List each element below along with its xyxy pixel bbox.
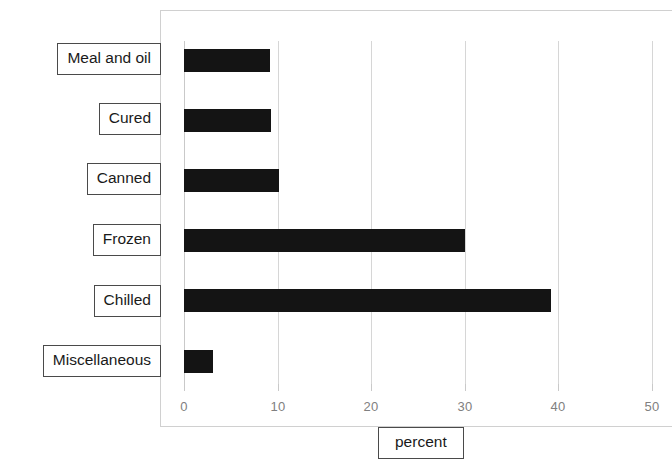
tickmark-40 (558, 384, 559, 391)
tickmark-50 (652, 384, 653, 391)
gridline-0 (184, 41, 185, 384)
bar-miscellaneous (184, 350, 213, 373)
gridline-40 (558, 41, 559, 384)
category-label-meal-and-oil: Meal and oil (57, 43, 161, 75)
tickmark-30 (465, 384, 466, 391)
tickmark-0 (184, 384, 185, 391)
category-label-frozen: Frozen (93, 224, 161, 256)
bar-chilled (184, 289, 551, 312)
category-label-cured: Cured (99, 103, 161, 135)
bar-chart-figure: 0 10 20 30 40 50 Meal and oil Cured Cann… (0, 0, 672, 459)
xtick-label-30: 30 (458, 399, 473, 414)
bar-meal-and-oil (184, 49, 270, 72)
plot-area: 0 10 20 30 40 50 (160, 10, 672, 427)
xtick-label-20: 20 (364, 399, 379, 414)
gridline-20 (371, 41, 372, 384)
bar-frozen (184, 229, 465, 252)
category-label-miscellaneous: Miscellaneous (43, 345, 161, 377)
gridline-10 (278, 41, 279, 384)
category-label-chilled: Chilled (94, 285, 161, 317)
bar-cured (184, 109, 271, 132)
gridline-30 (465, 41, 466, 384)
xtick-label-50: 50 (645, 399, 660, 414)
xtick-label-40: 40 (551, 399, 566, 414)
bar-canned (184, 169, 279, 192)
tickmark-20 (371, 384, 372, 391)
tickmark-10 (278, 384, 279, 391)
xtick-label-10: 10 (271, 399, 286, 414)
x-axis-title: percent (378, 427, 464, 459)
gridline-50 (652, 41, 653, 384)
category-label-canned: Canned (87, 163, 161, 195)
xtick-label-0: 0 (180, 399, 187, 414)
